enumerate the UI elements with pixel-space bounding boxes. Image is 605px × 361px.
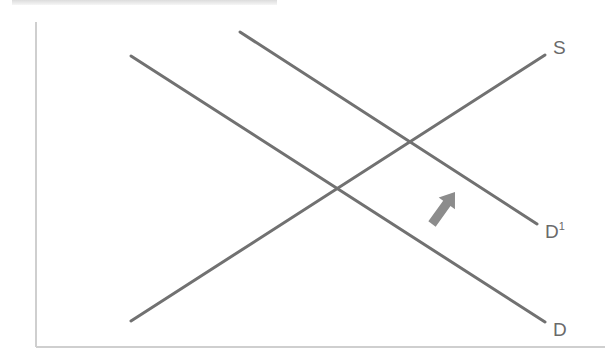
shifted-demand-label: D1 (545, 220, 565, 242)
demand-label: D (553, 319, 567, 340)
shift-arrow-icon (428, 192, 455, 227)
shifted-demand-curve (240, 32, 537, 224)
supply-demand-diagram: S D1 D (0, 0, 605, 361)
supply-label: S (553, 37, 566, 58)
